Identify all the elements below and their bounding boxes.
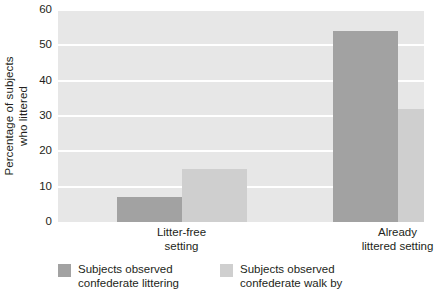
legend-label: Subjects observed confederate walk by xyxy=(240,263,342,290)
legend-item[interactable]: Subjects observed confederate littering xyxy=(58,263,179,290)
legend-label: Subjects observed confederate littering xyxy=(78,263,179,290)
chart-legend: Subjects observed confederate litteringS… xyxy=(58,263,434,293)
bar xyxy=(117,197,182,222)
y-axis-tick-label: 0 xyxy=(24,216,52,228)
bar xyxy=(182,169,247,222)
plot-area xyxy=(58,10,424,222)
y-axis-tick-label: 40 xyxy=(24,75,52,87)
legend-item[interactable]: Subjects observed confederate walk by xyxy=(220,263,342,290)
legend-swatch-icon xyxy=(58,264,71,277)
gridline xyxy=(58,10,424,11)
y-axis-tick-label: 10 xyxy=(24,181,52,193)
y-axis-tick-labels: 0102030405060 xyxy=(24,0,52,240)
x-axis-category-label: Already littered setting xyxy=(313,225,434,253)
legend-swatch-icon xyxy=(220,264,233,277)
y-axis-tick-label: 30 xyxy=(24,110,52,122)
bar xyxy=(333,31,398,222)
bar-chart: Percentage of subjects who littered 0102… xyxy=(0,0,434,293)
y-axis-tick-label: 20 xyxy=(24,145,52,157)
bar xyxy=(398,109,425,222)
x-axis-category-labels: Litter-free settingAlready littered sett… xyxy=(58,225,424,259)
y-axis-tick-label: 60 xyxy=(24,4,52,16)
x-axis-category-label: Litter-free setting xyxy=(97,225,267,253)
y-axis-tick-label: 50 xyxy=(24,39,52,51)
